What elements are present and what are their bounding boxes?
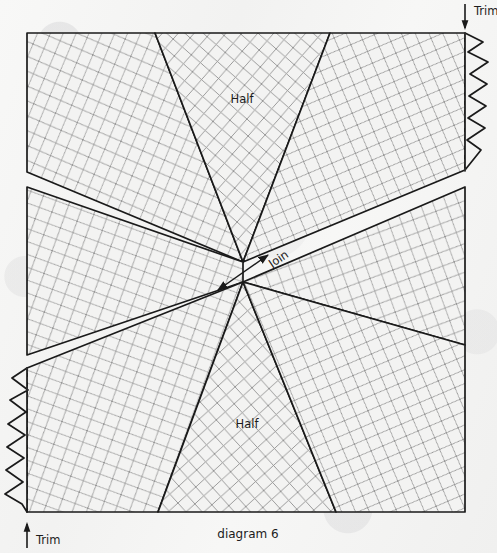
figure-caption: diagram 6 bbox=[217, 527, 278, 541]
diagram-figure: Trim Trim Join Half Half diagram 6 bbox=[0, 0, 497, 553]
trim-label-top: Trim bbox=[473, 4, 497, 18]
zigzag-edge-right bbox=[465, 33, 488, 170]
trim-label-bottom: Trim bbox=[35, 533, 60, 547]
half-label-top: Half bbox=[231, 92, 255, 106]
half-label-bottom: Half bbox=[236, 417, 260, 431]
zigzag-edge-left bbox=[5, 368, 28, 512]
diagram-page: Trim Trim Join Half Half diagram 6 bbox=[0, 0, 497, 553]
